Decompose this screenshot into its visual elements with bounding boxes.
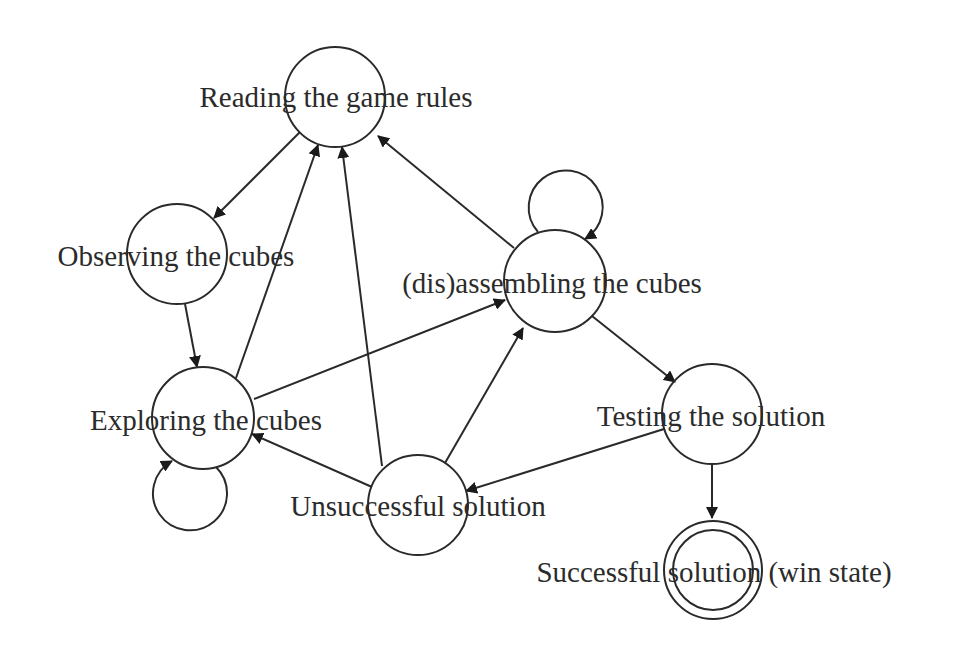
edge-exploring-to-assembling bbox=[254, 300, 505, 399]
edge-assembling-to-testing bbox=[592, 316, 675, 382]
node-label: Testing the solution bbox=[597, 400, 826, 432]
node-observing: Observing the cubes bbox=[58, 204, 295, 304]
node-unsuccessful: Unsuccessful solution bbox=[290, 455, 546, 555]
node-reading: Reading the game rules bbox=[200, 47, 473, 147]
edge-exploring-self-loop bbox=[153, 461, 227, 530]
node-testing: Testing the solution bbox=[597, 364, 826, 464]
edge-assembling-to-reading bbox=[378, 136, 514, 248]
node-label: Exploring the cubes bbox=[90, 404, 322, 436]
edge-unsuccessful-to-reading bbox=[342, 147, 382, 466]
edge-assembling-self-loop bbox=[529, 170, 603, 239]
node-assembling: (dis)assembling the cubes bbox=[402, 230, 702, 332]
node-successful: Successful solution (win state) bbox=[536, 521, 891, 619]
node-label: Successful solution (win state) bbox=[536, 556, 891, 589]
node-label: Reading the game rules bbox=[200, 81, 473, 113]
edge-observing-to-exploring bbox=[185, 304, 197, 367]
edge-reading-to-observing bbox=[214, 132, 300, 218]
edge-unsuccessful-to-assembling bbox=[445, 328, 523, 463]
state-diagram: Reading the game rules Observing the cub… bbox=[0, 0, 954, 648]
edge-testing-to-unsuccessful bbox=[466, 429, 664, 491]
edge-unsuccessful-to-exploring bbox=[252, 434, 372, 487]
node-label: Observing the cubes bbox=[58, 240, 295, 272]
node-exploring: Exploring the cubes bbox=[90, 367, 322, 469]
node-label: (dis)assembling the cubes bbox=[402, 267, 702, 300]
edges bbox=[153, 132, 712, 530]
node-label: Unsuccessful solution bbox=[290, 490, 546, 522]
